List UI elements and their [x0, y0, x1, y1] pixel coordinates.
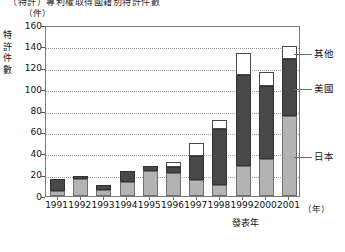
y-tick-label-80: 80 [16, 107, 42, 116]
bar-segment-1995-日本[interactable] [143, 171, 158, 196]
bar-segment-1993-美國[interactable] [96, 185, 111, 189]
x-tick-mark-1999 [242, 197, 243, 200]
legend-label-美國[interactable]: 美國 [314, 84, 334, 94]
bar-segment-2001-日本[interactable] [282, 116, 297, 196]
x-tick-mark-1994 [126, 197, 127, 200]
y-axis-title-c0: 特 [2, 30, 13, 42]
plot-area [45, 26, 300, 197]
bar-segment-1992-美國[interactable] [73, 176, 88, 179]
x-axis-unit-label: （年） [303, 205, 330, 214]
bar-segment-1991-日本[interactable] [50, 191, 65, 196]
y-tick-label-0: 0 [16, 193, 42, 202]
y-tick-mark-20 [41, 176, 45, 177]
bar-segment-1994-美國[interactable] [120, 171, 135, 182]
x-tick-mark-1991 [57, 197, 58, 200]
bar-series-layer [46, 27, 299, 196]
x-tick-mark-1996 [173, 197, 174, 200]
bar-1999[interactable] [236, 27, 251, 196]
y-tick-label-20: 20 [16, 171, 42, 180]
bar-segment-1998-其他[interactable] [212, 120, 227, 129]
legend-leader-line-美國 [294, 89, 312, 90]
y-tick-label-120: 120 [16, 64, 42, 73]
bar-segment-1997-日本[interactable] [189, 180, 204, 196]
bar-segment-2000-其他[interactable] [259, 72, 274, 86]
legend-leader-line-日本 [294, 157, 312, 158]
bar-2001[interactable] [282, 27, 297, 196]
bar-segment-1999-其他[interactable] [236, 53, 251, 75]
bar-segment-2000-美國[interactable] [259, 86, 274, 159]
y-tick-label-140: 140 [16, 43, 42, 52]
plot-inner [46, 27, 299, 196]
y-tick-mark-80 [41, 112, 45, 113]
y-axis-title-c3: 數 [2, 65, 13, 77]
y-tick-label-100: 100 [16, 86, 42, 95]
y-tick-mark-0 [41, 197, 45, 198]
y-tick-mark-100 [41, 90, 45, 91]
bar-segment-1996-日本[interactable] [166, 173, 181, 197]
x-tick-mark-1998 [219, 197, 220, 200]
bar-segment-1998-美國[interactable] [212, 129, 227, 186]
y-axis-unit-label: （件） [24, 9, 51, 18]
x-tick-mark-1992 [80, 197, 81, 200]
patent-count-stacked-bar-chart: （特許）專利權取得國籍別特許件數 （件） （年） 特 許 件 數 發表年 020… [0, 0, 345, 252]
bar-2000[interactable] [259, 27, 274, 196]
y-tick-mark-160 [41, 26, 45, 27]
x-tick-mark-1997 [196, 197, 197, 200]
bar-1993[interactable] [96, 27, 111, 196]
bar-segment-1991-美國[interactable] [50, 179, 65, 191]
bar-segment-1996-美國[interactable] [166, 167, 181, 172]
bar-segment-1996-其他[interactable] [166, 162, 181, 167]
bar-1992[interactable] [73, 27, 88, 196]
x-tick-mark-1995 [149, 197, 150, 200]
bar-segment-1993-日本[interactable] [96, 190, 111, 196]
bar-1998[interactable] [212, 27, 227, 196]
bar-segment-1997-美國[interactable] [189, 156, 204, 180]
x-tick-mark-2001 [288, 197, 289, 200]
bar-1995[interactable] [143, 27, 158, 196]
x-tick-mark-2000 [265, 197, 266, 200]
bar-1991[interactable] [50, 27, 65, 196]
bar-segment-1999-日本[interactable] [236, 166, 251, 196]
chart-title-strip: （特許）專利權取得國籍別特許件數 [0, 0, 345, 11]
y-tick-mark-120 [41, 69, 45, 70]
bar-segment-1998-日本[interactable] [212, 185, 227, 196]
y-tick-mark-60 [41, 133, 45, 134]
y-tick-label-60: 60 [16, 128, 42, 137]
x-axis-title: 發表年 [232, 218, 259, 228]
bar-segment-1997-其他[interactable] [189, 143, 204, 157]
x-tick-label-2001: 2001 [273, 200, 303, 210]
legend-leader-line-其他 [294, 54, 312, 55]
chart-title: （特許）專利權取得國籍別特許件數 [8, 0, 160, 8]
y-tick-mark-140 [41, 47, 45, 48]
y-axis-title: 特 許 件 數 [2, 30, 13, 76]
bar-segment-1994-日本[interactable] [120, 182, 135, 196]
legend-label-日本[interactable]: 日本 [314, 152, 334, 162]
y-tick-label-160: 160 [16, 22, 42, 31]
y-axis-title-c1: 許 [2, 42, 13, 54]
legend-label-其他[interactable]: 其他 [314, 49, 334, 59]
bar-1994[interactable] [120, 27, 135, 196]
bar-segment-1992-日本[interactable] [73, 179, 88, 196]
bar-1997[interactable] [189, 27, 204, 196]
bar-segment-2000-日本[interactable] [259, 159, 274, 196]
bar-segment-1995-美國[interactable] [143, 166, 158, 171]
y-tick-label-40: 40 [16, 150, 42, 159]
bar-segment-1999-美國[interactable] [236, 75, 251, 166]
y-tick-mark-40 [41, 154, 45, 155]
y-axis-title-c2: 件 [2, 53, 13, 65]
bar-segment-2001-美國[interactable] [282, 59, 297, 116]
bar-1996[interactable] [166, 27, 181, 196]
x-tick-mark-1993 [103, 197, 104, 200]
